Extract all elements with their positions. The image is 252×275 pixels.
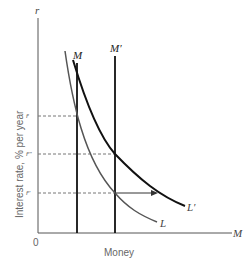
label-M: M — [72, 49, 83, 61]
label-r-prime: r̄′ — [26, 189, 31, 197]
label-L-prime: L′ — [186, 201, 196, 213]
label-r-bar: r̄ — [26, 112, 29, 120]
money-market-diagram: r M 0 Money Interest rate, % per year M … — [0, 0, 252, 275]
x-axis-label: Money — [104, 247, 134, 258]
y-axis-symbol: r — [35, 4, 40, 16]
x-axis-symbol: M — [232, 227, 243, 239]
label-r-double-prime: r̄″ — [26, 150, 32, 158]
y-axis-label: Interest rate, % per year — [14, 110, 25, 218]
demand-curve-L-prime — [73, 60, 185, 206]
label-L: L — [159, 217, 166, 229]
origin-label: 0 — [33, 237, 39, 248]
label-M-prime: M′ — [109, 42, 122, 54]
